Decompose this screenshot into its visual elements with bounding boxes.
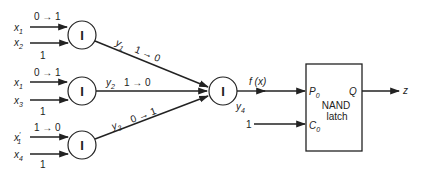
svg-text:x1: x1	[13, 77, 23, 90]
wire-y3: y3 0 → 1	[95, 96, 208, 139]
value-label: 1	[40, 106, 46, 117]
transition-label: 1 → 0	[34, 122, 61, 133]
svg-text:I: I	[80, 28, 84, 43]
svg-text:y4: y4	[235, 101, 245, 114]
svg-text:x4: x4	[13, 149, 23, 162]
svg-text:1 → 0: 1 → 0	[133, 44, 162, 64]
svg-text:x3: x3	[13, 95, 23, 108]
gate-2: I	[68, 77, 96, 105]
input-x3-gate2: x3 1	[13, 95, 68, 117]
logic-circuit-diagram: x1 0 → 1 x2 1 x1 0 → 1 x3 1 x′1 1 → 0 x4…	[0, 0, 432, 177]
svg-text:NAND: NAND	[322, 100, 350, 111]
svg-text:latch: latch	[326, 111, 347, 122]
svg-text:x1: x1	[13, 22, 23, 35]
nand-latch: P0 C0 Q NAND latch	[306, 64, 362, 151]
gate-3: I	[68, 131, 96, 159]
gate-4: I y4	[209, 77, 245, 114]
wire-fx: f (x)	[237, 76, 305, 91]
transition-label: 0 → 1	[34, 67, 61, 78]
svg-text:I: I	[80, 138, 84, 153]
svg-text:I: I	[80, 84, 84, 99]
transition-label: 0 → 1	[34, 11, 61, 22]
input-x1-gate1: x1 0 → 1	[13, 11, 67, 35]
gate-1: I	[68, 21, 96, 49]
svg-text:x′1: x′1	[13, 131, 21, 145]
wire-y1: y1 1 → 0	[95, 36, 208, 87]
svg-text:x2: x2	[13, 37, 23, 50]
svg-text:z: z	[402, 85, 408, 96]
svg-text:I: I	[221, 84, 225, 99]
wire-constant-c0: 1	[246, 119, 305, 130]
input-x1prime-gate3: x′1 1 → 0	[13, 122, 68, 145]
input-x1-gate2: x1 0 → 1	[13, 67, 67, 90]
svg-text:1: 1	[246, 119, 252, 130]
svg-text:Q: Q	[349, 86, 357, 97]
wire-output-z: z	[362, 85, 408, 96]
input-x4-gate3: x4 1	[13, 149, 68, 170]
svg-text:y2: y2	[105, 77, 115, 90]
value-label: 1	[40, 50, 46, 61]
svg-text:0 → 1: 0 → 1	[129, 105, 158, 125]
input-x2-gate1: x2 1	[13, 37, 68, 61]
value-label: 1	[40, 159, 46, 170]
svg-text:1 → 0: 1 → 0	[124, 77, 151, 88]
svg-text:f (x): f (x)	[249, 76, 266, 87]
